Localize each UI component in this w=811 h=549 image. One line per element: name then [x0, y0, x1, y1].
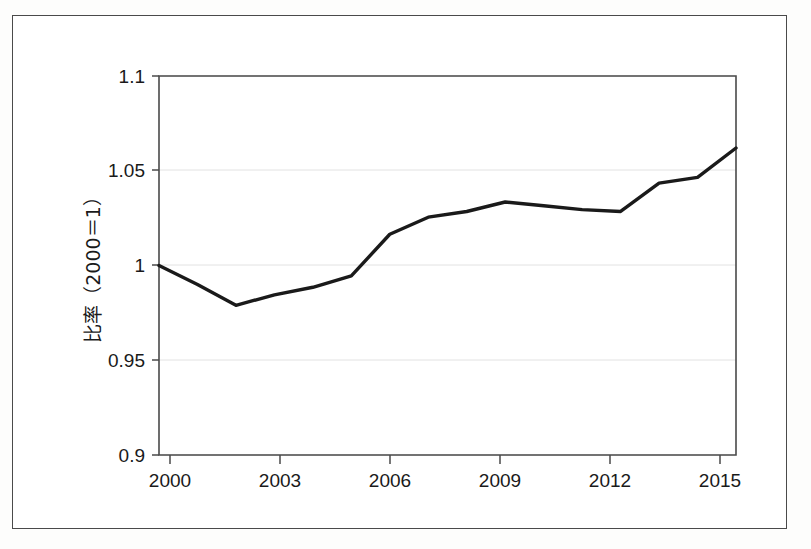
x-tick-label-2006: 2006: [369, 470, 411, 491]
x-tick-label-2003: 2003: [259, 470, 301, 491]
x-tick-label-2012: 2012: [589, 470, 631, 491]
line-chart: 1.1 1.05 1 0.95 0.9 2000 2003 2006 2009 …: [0, 0, 811, 549]
y-axis-tick-labels: 1.1 1.05 1 0.95 0.9: [108, 66, 145, 466]
y-tick-label-0.95: 0.95: [108, 350, 145, 371]
x-axis-ticks: [170, 455, 720, 464]
grid-lines: [159, 76, 736, 455]
y-axis-title: 比率（2000＝1）: [82, 187, 104, 342]
x-tick-label-2009: 2009: [479, 470, 521, 491]
y-tick-label-1: 1: [134, 255, 145, 276]
figure-root: 1.1 1.05 1 0.95 0.9 2000 2003 2006 2009 …: [0, 0, 811, 549]
y-tick-label-0.9: 0.9: [119, 445, 145, 466]
y-tick-label-1.05: 1.05: [108, 160, 145, 181]
y-tick-label-1.1: 1.1: [119, 66, 145, 87]
x-tick-label-2000: 2000: [149, 470, 191, 491]
x-tick-label-2015: 2015: [699, 470, 741, 491]
data-series-line: [159, 148, 736, 305]
x-axis-tick-labels: 2000 2003 2006 2009 2012 2015: [149, 470, 741, 491]
